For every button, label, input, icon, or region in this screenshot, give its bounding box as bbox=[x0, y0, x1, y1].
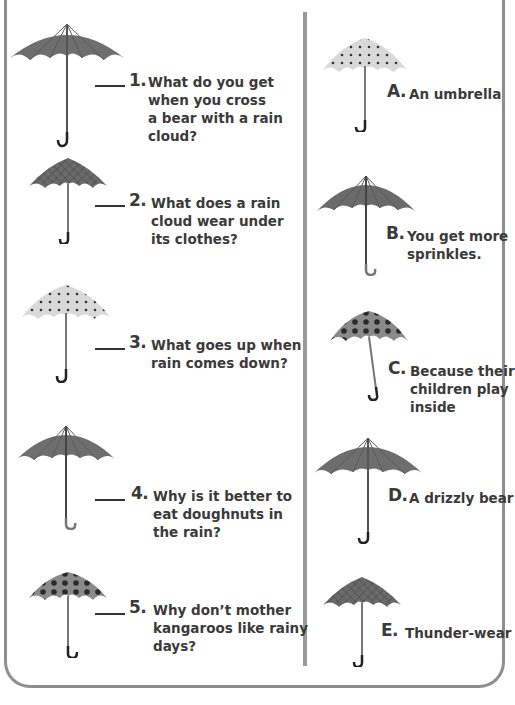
answer-letter: D. bbox=[388, 485, 408, 505]
question-text: What goes up when rain comes down? bbox=[151, 336, 301, 372]
answer-letter: E. bbox=[381, 620, 398, 640]
question-text: Why is it better to eat doughnuts in the… bbox=[153, 487, 292, 541]
answer-blank-3[interactable] bbox=[95, 348, 125, 350]
question-text: Why don’t mother kangaroos like rainy da… bbox=[153, 601, 308, 655]
question-text: What does a rain cloud wear under its cl… bbox=[151, 194, 284, 248]
answer-text: A drizzly bear bbox=[409, 489, 514, 507]
umbrella-plaid-icon bbox=[27, 156, 109, 244]
answer-letter: B. bbox=[386, 223, 404, 243]
answer-text: Thunder-wear bbox=[405, 624, 512, 642]
question-number: 2. bbox=[129, 190, 146, 210]
answer-blank-2[interactable] bbox=[95, 205, 125, 207]
answer-blank-1[interactable] bbox=[95, 85, 125, 87]
answer-text: You get more sprinkles. bbox=[407, 227, 508, 263]
umbrella-big-polka-dot-icon bbox=[328, 309, 410, 401]
column-divider bbox=[303, 12, 307, 666]
question-number: 5. bbox=[129, 597, 146, 617]
answer-letter: C. bbox=[388, 358, 406, 378]
question-text: What do you get when you cross a bear wi… bbox=[148, 73, 283, 145]
answer-text: Because their children play inside bbox=[410, 362, 515, 416]
question-number: 3. bbox=[129, 332, 146, 352]
question-number: 1. bbox=[129, 70, 146, 90]
answer-letter: A. bbox=[387, 81, 406, 101]
umbrella-light-polka-dot-icon bbox=[20, 283, 112, 383]
umbrella-solid-icon bbox=[14, 424, 118, 530]
answer-blank-4[interactable] bbox=[95, 499, 125, 501]
umbrella-solid-icon bbox=[311, 434, 425, 544]
answer-text: An umbrella bbox=[409, 85, 501, 103]
question-number: 4. bbox=[131, 483, 148, 503]
answer-blank-5[interactable] bbox=[95, 613, 125, 615]
